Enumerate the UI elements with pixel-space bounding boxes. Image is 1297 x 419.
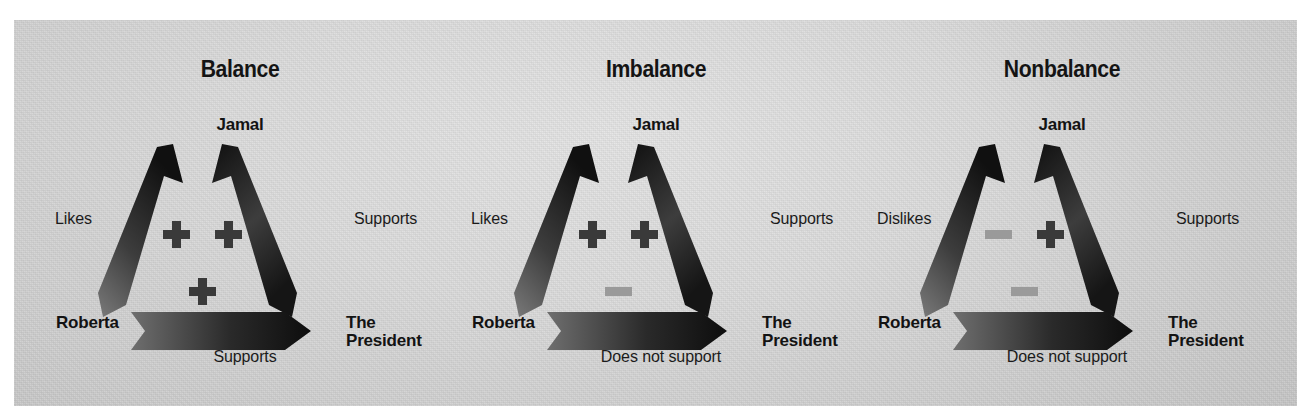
node-label-roberta: Roberta <box>472 314 535 332</box>
node-label-president-line2: President <box>762 332 838 350</box>
node-label-president-line2: President <box>346 332 422 350</box>
panel-nonbalance: Nonbalance <box>852 20 1272 406</box>
node-label-president: The President <box>762 314 838 349</box>
node-label-president-line1: The <box>1168 314 1244 332</box>
edge-label-right: Supports <box>1176 210 1239 227</box>
node-label-president: The President <box>346 314 422 349</box>
figure-canvas: Balance <box>0 0 1297 419</box>
node-label-president-line2: President <box>1168 332 1244 350</box>
node-label-roberta: Roberta <box>56 314 119 332</box>
sign-lower-center <box>1011 287 1038 296</box>
node-label-president-line1: The <box>762 314 838 332</box>
diagram-plate: Balance <box>14 20 1297 406</box>
edge-label-bottom: Supports <box>150 348 340 365</box>
sign-upper-right <box>631 221 658 248</box>
node-label-jamal: Jamal <box>446 116 866 134</box>
panel-imbalance: Imbalance <box>446 20 866 406</box>
edge-label-bottom: Does not support <box>566 348 756 365</box>
panel-title: Nonbalance <box>869 56 1255 83</box>
sign-upper-right <box>215 221 242 248</box>
node-label-roberta: Roberta <box>878 314 941 332</box>
edge-label-bottom: Does not support <box>972 348 1162 365</box>
sign-upper-left <box>985 230 1012 239</box>
node-label-jamal: Jamal <box>852 116 1272 134</box>
sign-lower-center <box>605 287 632 296</box>
panel-balance: Balance <box>30 20 450 406</box>
edge-label-right: Supports <box>770 210 833 227</box>
edge-label-left: Likes <box>55 210 92 227</box>
node-label-jamal: Jamal <box>30 116 450 134</box>
edge-label-left: Dislikes <box>877 210 931 227</box>
panel-title: Imbalance <box>463 56 849 83</box>
sign-upper-right <box>1037 221 1064 248</box>
sign-upper-left <box>579 221 606 248</box>
sign-lower-center <box>189 278 216 305</box>
panel-title: Balance <box>47 56 433 83</box>
edge-label-left: Likes <box>471 210 508 227</box>
sign-upper-left <box>163 221 190 248</box>
node-label-president-line1: The <box>346 314 422 332</box>
node-label-president: The President <box>1168 314 1244 349</box>
edge-label-right: Supports <box>354 210 417 227</box>
